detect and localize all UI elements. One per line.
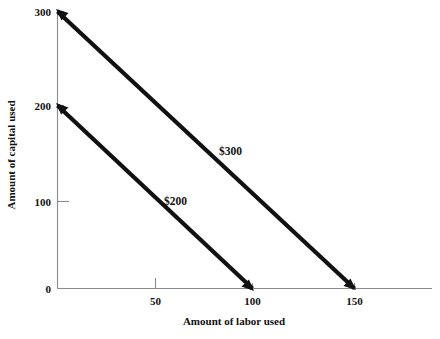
chart-canvas: 300 200 100 0 50 100 150 Amount of labor…: [0, 0, 440, 339]
series-label-300: $300: [219, 145, 242, 157]
y-tick-label-100: 100: [35, 196, 52, 208]
x-tick-label-150: 150: [346, 295, 363, 307]
x-tick-labels: 50 100 150: [150, 295, 363, 307]
isocost-line-200: [56, 103, 254, 291]
y-tick-label-0: 0: [46, 283, 52, 295]
y-tick-label-300: 300: [35, 6, 52, 18]
y-tick-label-200: 200: [35, 100, 52, 112]
x-tick-label-100: 100: [244, 295, 261, 307]
y-axis-title: Amount of capital used: [5, 100, 17, 209]
x-axis-title: Amount of labor used: [183, 315, 285, 327]
axes-group: [58, 10, 433, 289]
series-label-200: $200: [164, 195, 187, 207]
y-tick-labels: 300 200 100 0: [35, 6, 52, 295]
x-tick-marks: [156, 278, 355, 289]
isocost-line-300: [56, 9, 356, 290]
x-tick-label-50: 50: [150, 295, 162, 307]
y-tick-marks: [58, 12, 70, 289]
isocost-200-segment: [58, 106, 253, 289]
isocost-chart: 300 200 100 0 50 100 150 Amount of labor…: [0, 0, 440, 339]
